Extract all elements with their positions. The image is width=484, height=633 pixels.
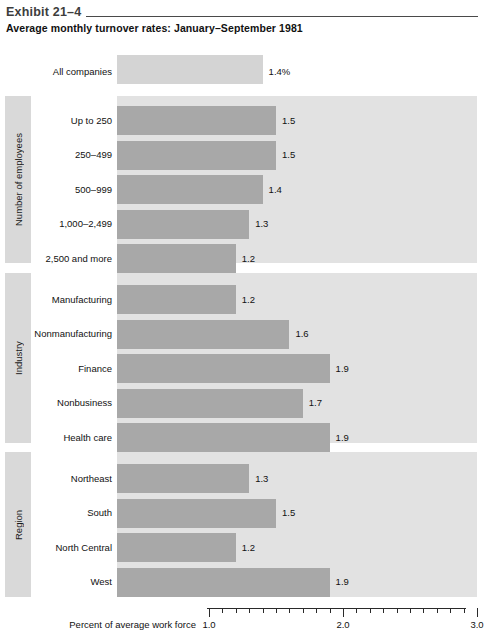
bar-row-label: Finance: [0, 364, 112, 374]
bar-value-label: 1.9: [336, 433, 349, 443]
x-axis-minor-tick: [289, 608, 290, 613]
bar-value-label: 1.3: [255, 219, 268, 229]
all-companies-bar: [117, 55, 263, 84]
bar-row-label: Northeast: [0, 474, 112, 484]
x-axis-minor-tick: [383, 608, 384, 613]
bar-row: 250–4991.5: [0, 141, 484, 170]
bar-value-label: 1.7: [309, 398, 322, 408]
x-axis-minor-tick: [330, 608, 331, 613]
bar-row-label: Nonbusiness: [0, 398, 112, 408]
x-axis-minor-tick: [397, 608, 398, 613]
x-axis-minor-tick: [410, 608, 411, 613]
chart-section-industry: IndustryManufacturing1.2Nonmanufacturing…: [0, 273, 484, 443]
bar-row-label: North Central: [0, 543, 112, 553]
bar-row-label: Nonmanufacturing: [0, 329, 112, 339]
x-axis-tick-label: 1.0: [202, 619, 215, 630]
bar-value-label: 1.6: [295, 329, 308, 339]
bar-row-label: Health care: [0, 433, 112, 443]
bar: [117, 499, 276, 528]
bar-row-label: 250–499: [0, 150, 112, 160]
x-axis-minor-tick: [263, 608, 264, 613]
bar-row-label: 2,500 and more: [0, 254, 112, 264]
bar: [117, 285, 236, 314]
bar-row-label: South: [0, 508, 112, 518]
x-axis-minor-tick: [450, 608, 451, 613]
bar-row: Up to 2501.5: [0, 106, 484, 135]
all-companies-label: All companies: [0, 66, 112, 77]
x-axis-minor-tick: [316, 608, 317, 613]
exhibit-header: Exhibit 21–4: [6, 2, 478, 22]
bar-row-label: Manufacturing: [0, 295, 112, 305]
x-axis-tick-label: 3.0: [470, 619, 483, 630]
section-rows: Northeast1.3South1.5North Central1.2West…: [0, 452, 484, 597]
x-axis-minor-tick: [303, 608, 304, 613]
bar-value-label: 1.2: [242, 295, 255, 305]
bar-row: Nonbusiness1.7: [0, 389, 484, 418]
x-axis: Percent of average work force 1.02.03.0: [0, 600, 484, 633]
bar-value-label: 1.3: [255, 474, 268, 484]
bar: [117, 320, 289, 349]
bar-row: South1.5: [0, 499, 484, 528]
bar: [117, 423, 330, 452]
bar: [117, 464, 249, 493]
x-axis-minor-tick: [437, 608, 438, 613]
bar-value-label: 1.5: [282, 150, 295, 160]
bar: [117, 568, 330, 597]
bar-row: Health care1.9: [0, 423, 484, 452]
bar: [117, 106, 276, 135]
chart-section-region: RegionNortheast1.3South1.5North Central1…: [0, 452, 484, 597]
x-axis-minor-tick: [423, 608, 424, 613]
x-axis-minor-tick: [356, 608, 357, 613]
section-rows: Up to 2501.5250–4991.5500–9991.41,000–2,…: [0, 96, 484, 263]
bar: [117, 244, 236, 273]
x-axis-minor-tick: [249, 608, 250, 613]
x-axis-minor-tick: [464, 608, 465, 613]
bar-value-label: 1.5: [282, 508, 295, 518]
bar: [117, 175, 263, 204]
section-rows: Manufacturing1.2Nonmanufacturing1.6Finan…: [0, 273, 484, 443]
x-axis-major-tick: [477, 608, 478, 617]
bar-row: Manufacturing1.2: [0, 285, 484, 314]
bar-row-label: 500–999: [0, 185, 112, 195]
x-axis-tick-label: 2.0: [336, 619, 349, 630]
bar-row-label: Up to 250: [0, 116, 112, 126]
bar-row: 2,500 and more1.2: [0, 244, 484, 273]
x-axis-minor-tick: [222, 608, 223, 613]
header-rule: [86, 16, 478, 17]
bar-row: West1.9: [0, 568, 484, 597]
bar-row: 500–9991.4: [0, 175, 484, 204]
exhibit-number-label: Exhibit 21–4: [6, 5, 81, 19]
x-axis-minor-tick: [276, 608, 277, 613]
bar-value-label: 1.9: [336, 364, 349, 374]
chart-section-number-of-employees: Number of employeesUp to 2501.5250–4991.…: [0, 96, 484, 263]
x-axis-line: [207, 608, 466, 609]
bar-row: Finance1.9: [0, 354, 484, 383]
x-axis-major-tick: [343, 608, 344, 617]
x-axis-major-tick: [209, 608, 210, 617]
x-axis-minor-tick: [370, 608, 371, 613]
bar-value-label: 1.2: [242, 543, 255, 553]
bar-row-label: West: [0, 577, 112, 587]
all-companies-value: 1.4%: [269, 66, 291, 77]
bar: [117, 389, 303, 418]
bar-value-label: 1.9: [336, 577, 349, 587]
bar-row: Nonmanufacturing1.6: [0, 320, 484, 349]
x-axis-minor-tick: [236, 608, 237, 613]
bar: [117, 354, 330, 383]
bar: [117, 210, 249, 239]
bar-value-label: 1.4: [269, 185, 282, 195]
bar-value-label: 1.5: [282, 116, 295, 126]
bar: [117, 141, 276, 170]
x-axis-caption: Percent of average work force: [0, 619, 196, 630]
bar-row: 1,000–2,4991.3: [0, 210, 484, 239]
bar-row: Northeast1.3: [0, 464, 484, 493]
bar: [117, 533, 236, 562]
bar-row: North Central1.2: [0, 533, 484, 562]
chart-title: Average monthly turnover rates: January–…: [6, 22, 303, 34]
bar-row-label: 1,000–2,499: [0, 219, 112, 229]
bar-value-label: 1.2: [242, 254, 255, 264]
all-companies-row: All companies 1.4%: [0, 55, 484, 85]
